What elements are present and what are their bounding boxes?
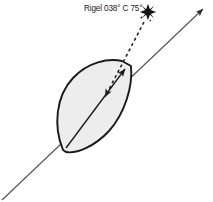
star-sight-label: Rigel 038° C 75° bbox=[84, 3, 142, 14]
ship-hull-group bbox=[57, 60, 131, 152]
celestial-bearing-diagram: Rigel 038° C 75° bbox=[0, 0, 213, 202]
ship-hull-outline bbox=[57, 60, 131, 152]
diagram-canvas bbox=[0, 0, 213, 202]
